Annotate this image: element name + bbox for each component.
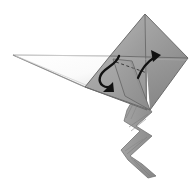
origami-diagram-svg: Origami fold step diagram A flat kite-sh…: [0, 0, 196, 183]
origami-figure-container: Origami fold step diagram A flat kite-sh…: [0, 0, 196, 183]
